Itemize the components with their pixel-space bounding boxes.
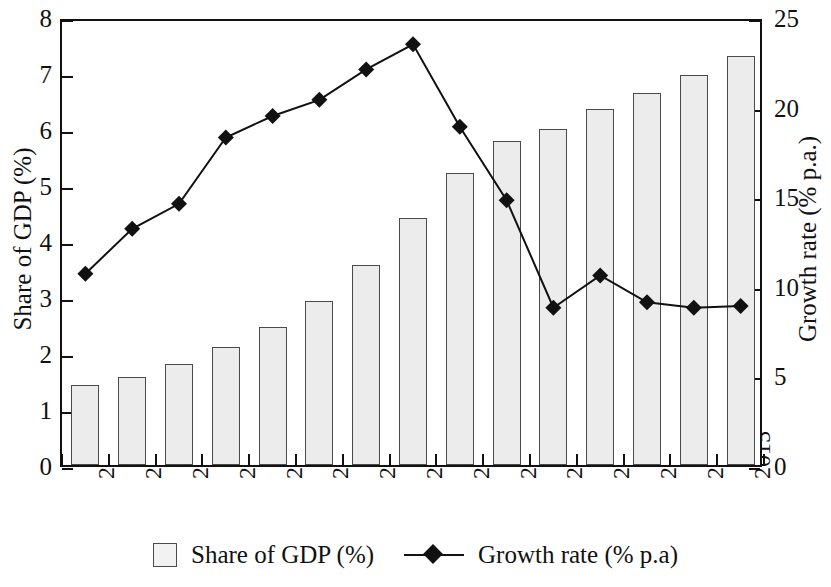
data-point-marker [218, 129, 234, 145]
right-axis-title: Growth rate (% p.a.) [794, 79, 822, 399]
data-point-marker [686, 300, 702, 316]
left-axis-tick-label: 2 [12, 342, 52, 367]
data-point-marker [592, 267, 608, 283]
data-point-marker [639, 294, 655, 310]
data-point-marker [733, 298, 749, 314]
left-axis-tick-label: 0 [12, 454, 52, 479]
legend-line-diamond-icon [404, 545, 464, 565]
chart-figure: Share of GDP (%) Growth rate (% p.a.) 01… [0, 0, 831, 587]
data-point-marker [311, 92, 327, 108]
data-point-marker [452, 119, 468, 135]
left-axis-tick-label: 7 [12, 62, 52, 87]
right-axis-tick-label: 0 [774, 454, 814, 479]
plot-area [60, 19, 762, 467]
growth-rate-line [85, 44, 740, 307]
legend-label-share-of-gdp: Share of GDP (%) [191, 541, 374, 569]
right-axis-tick-label: 5 [774, 364, 814, 389]
legend-item-growth-rate: Growth rate (% p.a) [404, 541, 678, 569]
left-axis-tick-label: 6 [12, 118, 52, 143]
data-point-marker [499, 192, 515, 208]
left-axis-tick-label: 5 [12, 174, 52, 199]
chart-legend: Share of GDP (%) Growth rate (% p.a) [0, 541, 831, 569]
legend-label-growth-rate: Growth rate (% p.a) [478, 541, 678, 569]
left-axis-tick-label: 1 [12, 398, 52, 423]
data-point-marker [405, 36, 421, 52]
left-axis-tick-label: 4 [12, 230, 52, 255]
left-axis-tick-label: 3 [12, 286, 52, 311]
data-point-marker [545, 300, 561, 316]
legend-swatch-icon [153, 543, 177, 567]
right-axis-tick-label: 15 [774, 185, 814, 210]
legend-item-share-of-gdp: Share of GDP (%) [153, 541, 374, 569]
left-axis-tick-label: 8 [12, 6, 52, 31]
right-axis-tick-label: 20 [774, 96, 814, 121]
data-point-marker [265, 108, 281, 124]
data-point-marker [171, 196, 187, 212]
data-point-marker [358, 61, 374, 77]
line-series [62, 21, 764, 469]
right-axis-tick-label: 10 [774, 275, 814, 300]
right-axis-tick-label: 25 [774, 6, 814, 31]
